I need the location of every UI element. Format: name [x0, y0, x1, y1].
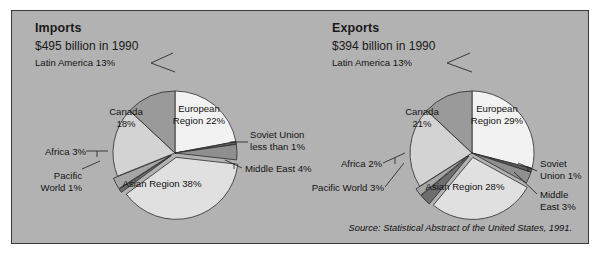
exports-label-asian: Asian Region 28%: [404, 181, 526, 193]
source-note: Source: Statistical Abstract of the Unit…: [310, 223, 572, 233]
leader-latin-america-exports: [447, 63, 472, 72]
exports-label-africa: Africa 2%: [310, 158, 382, 170]
leader-pacific-exports: [385, 163, 404, 187]
exports-label-middle-east-line1: Middle: [540, 189, 568, 201]
exports-label-soviet-line1: Soviet: [540, 158, 567, 170]
exports-label-canada-line1: Canada: [390, 106, 454, 118]
exports-pie-svg: [12, 11, 590, 245]
leader-latin-america-exports-2: [447, 53, 470, 63]
exports-label-latin-america: Latin America 13%: [332, 57, 412, 69]
exports-label-european-line1: European: [458, 103, 536, 115]
exports-chart: Exports $394 billion in 1990 Latin Ameri…: [12, 11, 588, 243]
exports-label-canada-line2: 21%: [390, 118, 454, 130]
leader-africa-exports: [383, 153, 405, 163]
chart-panel: Imports $495 billion in 1990 Latin Ameri…: [11, 10, 589, 244]
exports-label-european-line2: Region 29%: [458, 115, 536, 127]
exports-label-pacific: Pacific World 3%: [280, 182, 384, 194]
exports-label-middle-east-line2: East 3%: [540, 201, 576, 213]
figure-root: Imports $495 billion in 1990 Latin Ameri…: [0, 0, 609, 264]
exports-label-soviet-line2: Union 1%: [540, 170, 582, 182]
